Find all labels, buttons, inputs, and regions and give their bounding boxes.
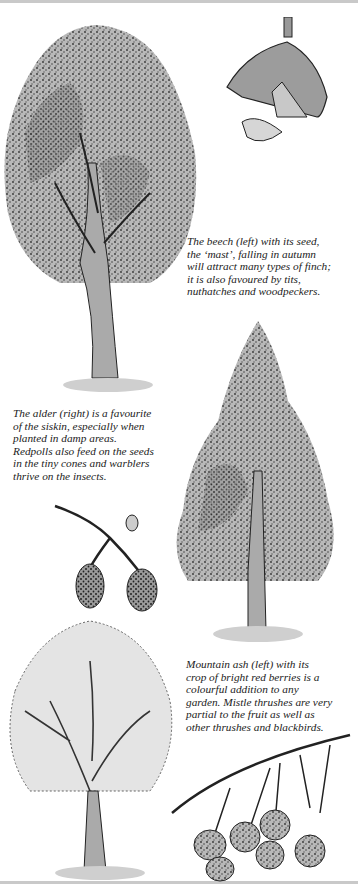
page: The beech (left) with its seed, the ‘mas… — [0, 0, 358, 884]
beech-caption: The beech (left) with its seed, the ‘mas… — [187, 235, 357, 298]
rowan-berries-illustration — [170, 733, 358, 883]
mountain-ash-caption: Mountain ash (left) with its crop of bri… — [186, 658, 356, 734]
mountain-ash-tree-illustration — [0, 611, 180, 881]
alder-caption: The alder (right) is a favourite of the … — [13, 407, 183, 483]
alder-tree-illustration — [168, 321, 348, 646]
alder-cones-illustration — [50, 498, 170, 613]
beech-mast-illustration — [222, 17, 332, 143]
